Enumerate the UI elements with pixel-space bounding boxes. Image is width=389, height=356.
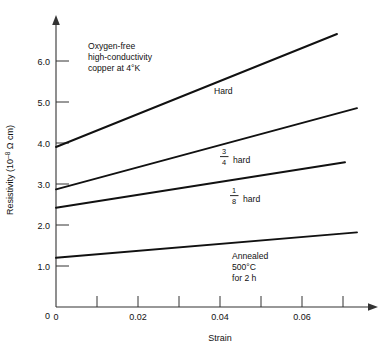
y-axis-title-tail: Ω cm) bbox=[5, 125, 15, 152]
y-tick-label-4: 4.0 bbox=[37, 139, 50, 149]
y-axis-arrowhead bbox=[52, 15, 60, 25]
y-tick-label-0: 0 bbox=[45, 311, 50, 321]
annotation-line-2: high-conductivity bbox=[88, 52, 153, 62]
series-label-three-quarter-hard: 3 4 hard bbox=[220, 147, 250, 167]
fraction-denominator-8: 8 bbox=[232, 197, 236, 206]
y-ticks-group bbox=[56, 61, 69, 266]
svg-text:Resistivity (10–8 Ω cm): Resistivity (10–8 Ω cm) bbox=[4, 125, 15, 215]
y-tick-label-6: 6.0 bbox=[37, 57, 50, 67]
resistivity-strain-chart: 6.0 5.0 4.0 3.0 2.0 1.0 0 0 0.02 0.04 0.… bbox=[0, 0, 389, 356]
x-tick-label-0.06: 0.06 bbox=[293, 312, 311, 322]
chart-canvas: 6.0 5.0 4.0 3.0 2.0 1.0 0 0 0.02 0.04 0.… bbox=[0, 0, 389, 356]
annealed-line-3: for 2 h bbox=[232, 273, 257, 283]
y-axis-title: Resistivity (10–8 Ω cm) bbox=[4, 125, 15, 215]
fraction-denominator-4: 4 bbox=[222, 158, 226, 167]
annealed-line-1: Annealed bbox=[232, 251, 269, 261]
series-label-one-eighth-hard: 1 8 hard bbox=[230, 186, 260, 206]
fraction-numerator-1: 1 bbox=[232, 186, 236, 195]
y-axis-title-main: Resistivity (10 bbox=[5, 159, 15, 215]
annotation-line-1: Oxygen-free bbox=[88, 41, 136, 51]
y-tick-labels-group: 6.0 5.0 4.0 3.0 2.0 1.0 0 bbox=[37, 57, 50, 321]
curve-three-quarter-hard bbox=[56, 108, 357, 189]
x-tick-label-0.02: 0.02 bbox=[129, 312, 147, 322]
annotation-line-3: copper at 4°K bbox=[88, 63, 140, 73]
x-tick-labels-group: 0 0.02 0.04 0.06 bbox=[53, 312, 310, 322]
x-tick-label-0.04: 0.04 bbox=[211, 312, 229, 322]
annealed-line-2: 500°C bbox=[232, 262, 256, 272]
curve-annealed bbox=[56, 232, 357, 257]
y-tick-label-1: 1.0 bbox=[37, 262, 50, 272]
x-ticks-group bbox=[97, 296, 343, 307]
fraction-numerator-3: 3 bbox=[222, 147, 226, 156]
chart-annotation: Oxygen-free high-conductivity copper at … bbox=[88, 41, 153, 73]
x-tick-label-0: 0 bbox=[53, 312, 58, 322]
series-label-annealed: Annealed 500°C for 2 h bbox=[232, 251, 269, 283]
y-tick-label-2: 2.0 bbox=[37, 221, 50, 231]
series-label-hard: Hard bbox=[214, 86, 233, 96]
curve-one-eighth-hard bbox=[56, 162, 345, 208]
series-label-hard-word-3-4: hard bbox=[233, 155, 250, 165]
y-tick-label-5: 5.0 bbox=[37, 98, 50, 108]
y-tick-label-3: 3.0 bbox=[37, 180, 50, 190]
x-axis-title: Strain bbox=[208, 333, 232, 343]
x-axis-arrowhead bbox=[368, 303, 378, 311]
series-label-hard-word-1-8: hard bbox=[243, 194, 260, 204]
